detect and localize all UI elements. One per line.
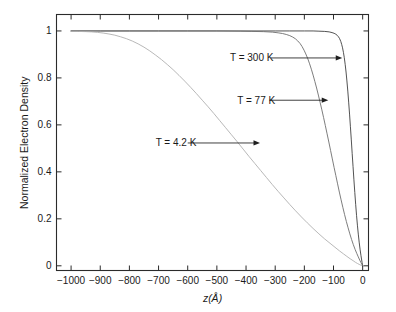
x-tick-label-0: −1000 [57, 275, 85, 286]
x-tick-label-2: −800 [118, 275, 141, 286]
x-tick-label-4: −600 [176, 275, 199, 286]
electron-density-plot [0, 0, 396, 312]
y-tick-label-2: 0.4 [38, 166, 52, 177]
x-tick-label-7: −300 [264, 275, 287, 286]
annotation-label-0: T = 300 K [230, 52, 273, 63]
x-axis-title: z(Å) [203, 292, 222, 304]
x-tick-label-3: −700 [147, 275, 170, 286]
x-tick-label-9: −100 [322, 275, 345, 286]
y-tick-label-4: 0.8 [38, 72, 52, 83]
x-tick-label-1: −900 [89, 275, 112, 286]
y-tick-label-0: 0 [46, 260, 52, 271]
x-tick-label-5: −500 [206, 275, 229, 286]
x-tick-label-6: −400 [235, 275, 258, 286]
y-axis-title: Normalized Electron Density [18, 76, 30, 208]
y-tick-label-3: 0.6 [38, 119, 52, 130]
x-tick-label-8: −200 [293, 275, 316, 286]
y-tick-label-5: 1 [46, 25, 52, 36]
annotation-label-1: T = 77 K [237, 95, 275, 106]
y-tick-label-1: 0.2 [38, 213, 52, 224]
chart-figure: −1000−900−800−700−600−500−400−300−200−10… [0, 0, 396, 312]
x-tick-label-10: 0 [360, 275, 366, 286]
plot-background [0, 0, 396, 312]
x-axis-title-text: z(Å) [203, 292, 222, 304]
annotation-label-2: T = 4.2 K [156, 137, 197, 148]
